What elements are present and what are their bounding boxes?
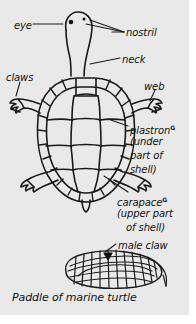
label-nostril: nostril (126, 27, 157, 38)
label-plastron-note-3: shell) (130, 164, 157, 175)
turtle-anatomy-illustration (0, 0, 196, 324)
label-male-claw: male claw (118, 240, 168, 251)
label-neck: neck (122, 54, 145, 65)
figure-page: eye nostril neck claws web plastronG (un… (0, 0, 196, 324)
label-plastron-text: plastron (130, 125, 170, 136)
front-limbs (10, 99, 162, 113)
eye-marker (69, 20, 74, 25)
label-eye: eye (14, 20, 32, 31)
label-web: web (144, 81, 164, 92)
figure-caption: Paddle of marine turtle (12, 292, 137, 303)
vertebral-scutes (71, 79, 101, 192)
label-plastron-superscript: G (170, 124, 175, 131)
label-carapace-superscript: G (162, 196, 167, 203)
label-plastron-note-1: (under (130, 136, 163, 147)
label-plastron-note-2: part of (130, 150, 163, 161)
label-carapace-note-2: of shell) (126, 222, 165, 233)
label-claws: claws (6, 72, 33, 83)
label-carapace-note-1: (upper part (117, 208, 173, 219)
hind-limbs (21, 172, 151, 192)
nostril-marker (83, 18, 86, 21)
label-plastron: plastronG (130, 122, 175, 136)
label-carapace-text: carapace (117, 197, 162, 208)
label-carapace: carapaceG (117, 194, 167, 208)
